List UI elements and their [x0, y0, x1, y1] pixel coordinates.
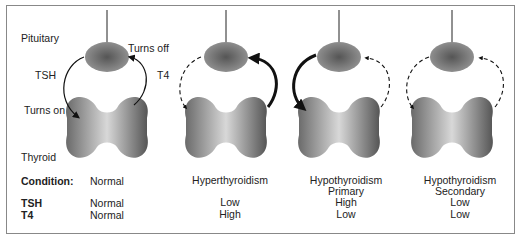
normal-unit	[64, 10, 148, 158]
turns-on-label: Turns on	[24, 104, 65, 116]
tsh-row-label: TSH	[21, 197, 42, 209]
turns-off-label: Turns off	[128, 42, 169, 54]
pituitary-label: Pituitary	[21, 32, 59, 44]
t4-row-label: T4	[21, 209, 33, 221]
col2-tsh: Low	[170, 197, 290, 208]
secondary-hypothyroidism-unit	[407, 10, 504, 158]
col2-condition: Hyperthyroidism	[170, 175, 290, 186]
condition-row-label: Condition:	[21, 175, 73, 187]
col3-t4: Low	[286, 209, 406, 220]
col4-tsh: Low	[400, 197, 520, 208]
hyperthyroidism-unit	[180, 10, 277, 158]
t4-arrow-label: T4	[157, 69, 169, 81]
thyroid-label: Thyroid	[21, 151, 56, 163]
col1-condition: Normal	[90, 175, 124, 187]
col3-tsh: High	[286, 197, 406, 208]
col2-t4: High	[170, 209, 290, 220]
col1-tsh: Normal	[90, 197, 124, 209]
primary-hypothyroidism-unit	[294, 10, 390, 158]
col1-t4: Normal	[90, 209, 124, 221]
tsh-arrow-label: TSH	[35, 69, 56, 81]
col4-t4: Low	[400, 209, 520, 220]
